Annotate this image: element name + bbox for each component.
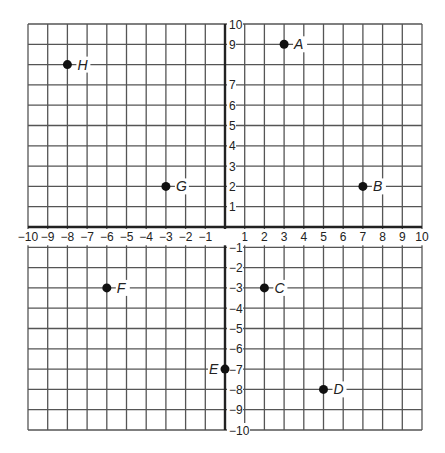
point-dot (260, 283, 269, 292)
point-label: B (373, 178, 382, 194)
x-tick-label: 2 (261, 230, 268, 244)
y-tick-label: 6 (229, 99, 236, 113)
point-label: C (274, 280, 285, 296)
coordinate-plane: −10−9−8−7−6−5−4−3−2−112345678910 1097654… (0, 0, 445, 453)
point-label: H (77, 57, 88, 73)
y-tick-label: 3 (229, 160, 236, 174)
y-tick-label: −7 (229, 363, 243, 377)
x-tick-label: 9 (399, 230, 406, 244)
point-dot (102, 283, 111, 292)
x-tick-label: 4 (300, 230, 307, 244)
point-e: E (208, 361, 230, 377)
y-tick-label: −4 (229, 302, 243, 316)
point-label: F (117, 280, 127, 296)
x-tick-label: 10 (415, 230, 429, 244)
x-tick-label: −7 (80, 230, 94, 244)
y-tick-label: 10 (229, 18, 243, 32)
x-tick-label: 3 (281, 230, 288, 244)
y-tick-label: 5 (229, 119, 236, 133)
x-tick-label: 7 (360, 230, 367, 244)
x-tick-label: 8 (379, 230, 386, 244)
x-tick-label: −6 (100, 230, 114, 244)
y-tick-label: −2 (229, 261, 243, 275)
y-tick-label: −5 (229, 322, 243, 336)
y-tick-label: −1 (229, 241, 243, 255)
y-tick-label: 4 (229, 139, 236, 153)
x-axis-tick-labels: −10−9−8−7−6−5−4−3−2−112345678910 (18, 229, 429, 245)
point-label: D (334, 381, 344, 397)
y-tick-label: −9 (229, 403, 243, 417)
point-dot (280, 40, 289, 49)
x-tick-label: 6 (340, 230, 347, 244)
x-tick-label: −3 (159, 230, 173, 244)
y-tick-label: −3 (229, 281, 243, 295)
x-tick-label: −1 (198, 230, 212, 244)
x-tick-label: −9 (41, 230, 55, 244)
x-tick-label: −4 (139, 230, 153, 244)
point-dot (221, 365, 230, 374)
y-tick-label: 1 (229, 200, 236, 214)
y-tick-label: 7 (229, 78, 236, 92)
x-tick-label: −5 (120, 230, 134, 244)
x-tick-label: −8 (61, 230, 75, 244)
x-tick-label: 5 (320, 230, 327, 244)
point-label: E (209, 361, 219, 377)
point-dot (161, 182, 170, 191)
y-tick-label: −6 (229, 342, 243, 356)
y-tick-label: 9 (229, 38, 236, 52)
y-tick-label: −8 (229, 383, 243, 397)
x-tick-label: −10 (18, 230, 39, 244)
point-label: G (176, 178, 187, 194)
x-tick-label: −2 (179, 230, 193, 244)
point-dot (63, 60, 72, 69)
point-dot (319, 385, 328, 394)
point-dot (358, 182, 367, 191)
y-tick-label: 2 (229, 180, 236, 194)
point-label: A (293, 36, 303, 52)
y-tick-label: −10 (229, 424, 250, 438)
